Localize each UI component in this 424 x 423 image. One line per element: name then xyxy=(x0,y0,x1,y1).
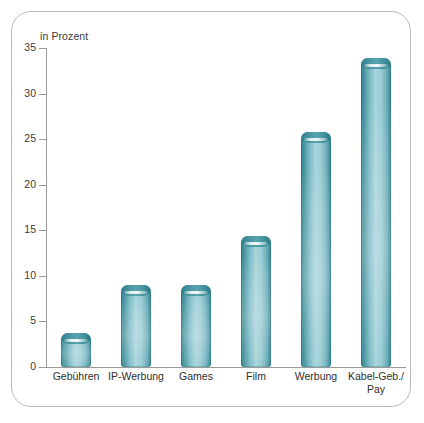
y-tick-label: 30 xyxy=(14,87,36,99)
x-axis-label: Film xyxy=(225,370,287,383)
y-tick-label: 5 xyxy=(14,314,36,326)
y-tick-mark xyxy=(39,367,47,368)
y-tick-label: 25 xyxy=(14,132,36,144)
bar[interactable] xyxy=(121,285,151,367)
bar[interactable] xyxy=(361,58,391,367)
bar-slot xyxy=(346,48,406,367)
x-axis-line xyxy=(46,367,406,368)
bar[interactable] xyxy=(181,285,211,367)
chart-card: in Prozent 05101520253035 GebührenIP-Wer… xyxy=(11,11,411,407)
x-axis-label: IP-Werbung xyxy=(105,370,167,383)
bar[interactable] xyxy=(241,236,271,367)
bar[interactable] xyxy=(301,132,331,367)
y-tick-label: 35 xyxy=(14,41,36,53)
x-axis-label: Kabel-Geb./ Pay xyxy=(345,370,407,395)
bar-slot xyxy=(46,48,106,367)
x-axis-label: Werbung xyxy=(285,370,347,383)
bar-slot xyxy=(106,48,166,367)
bar[interactable] xyxy=(61,333,91,367)
bar-slot xyxy=(286,48,346,367)
y-tick-label: 0 xyxy=(14,360,36,372)
y-tick-label: 20 xyxy=(14,178,36,190)
bar-slot xyxy=(226,48,286,367)
bar-series xyxy=(46,48,406,367)
x-axis-labels: GebührenIP-WerbungGamesFilmWerbungKabel-… xyxy=(46,370,406,408)
bar-slot xyxy=(166,48,226,367)
y-tick-label: 15 xyxy=(14,223,36,235)
x-axis-label: Games xyxy=(165,370,227,383)
x-axis-label: Gebühren xyxy=(45,370,107,383)
y-tick-label: 10 xyxy=(14,269,36,281)
plot-area: 05101520253035 xyxy=(12,12,412,408)
